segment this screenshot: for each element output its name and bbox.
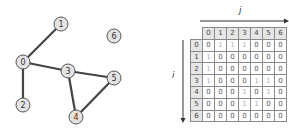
matrix-cell: 1 xyxy=(239,86,251,98)
col-header: 2 xyxy=(227,28,239,40)
matrix-cell: 1 xyxy=(215,39,227,51)
col-header: 0 xyxy=(203,28,215,40)
matrix-row: 21000000 xyxy=(191,63,287,75)
matrix-row: 50001100 xyxy=(191,98,287,110)
i-arrowhead-icon xyxy=(181,118,186,123)
col-header: 5 xyxy=(263,28,275,40)
node-3: 3 xyxy=(61,64,75,78)
node-label: 6 xyxy=(111,32,116,41)
node-label: 3 xyxy=(65,67,70,76)
matrix-cell: 0 xyxy=(203,39,215,51)
adjacency-matrix-table: 0123456001110001100000021000000310001104… xyxy=(190,27,287,122)
matrix-cell: 1 xyxy=(251,75,263,87)
row-header: 1 xyxy=(191,51,203,63)
col-header: 1 xyxy=(215,28,227,40)
matrix-cell: 0 xyxy=(251,110,263,122)
matrix-cell: 0 xyxy=(263,51,275,63)
matrix-cell: 0 xyxy=(275,110,287,122)
matrix-corner xyxy=(191,28,203,40)
matrix-row: 60000000 xyxy=(191,110,287,122)
matrix-cell: 0 xyxy=(275,63,287,75)
matrix-cell: 1 xyxy=(203,63,215,75)
matrix-cell: 0 xyxy=(251,51,263,63)
matrix-cell: 0 xyxy=(227,98,239,110)
matrix-cell: 0 xyxy=(203,98,215,110)
j-arrowhead-icon xyxy=(284,19,289,24)
matrix-cell: 1 xyxy=(203,51,215,63)
matrix-cell: 0 xyxy=(227,63,239,75)
matrix-cell: 0 xyxy=(215,63,227,75)
node-1: 1 xyxy=(54,17,68,31)
row-header: 4 xyxy=(191,86,203,98)
matrix-cell: 1 xyxy=(263,75,275,87)
node-label: 2 xyxy=(20,101,25,110)
matrix-cell: 1 xyxy=(239,98,251,110)
node-label: 0 xyxy=(20,58,25,67)
matrix-row: 00111000 xyxy=(191,39,287,51)
matrix-cell: 0 xyxy=(227,51,239,63)
graph-diagram: 0123456 xyxy=(0,0,150,133)
row-header: 0 xyxy=(191,39,203,51)
col-header: 4 xyxy=(251,28,263,40)
edge-0-1 xyxy=(23,24,61,62)
matrix-cell: 1 xyxy=(263,86,275,98)
col-header: 3 xyxy=(239,28,251,40)
node-6: 6 xyxy=(107,29,121,43)
matrix-cell: 0 xyxy=(251,63,263,75)
row-header: 5 xyxy=(191,98,203,110)
matrix-cell: 1 xyxy=(203,75,215,87)
adjacency-matrix-panel: j i 012345600111000110000002100000031000… xyxy=(160,0,289,133)
node-label: 4 xyxy=(73,113,78,122)
matrix-cell: 0 xyxy=(275,39,287,51)
node-0: 0 xyxy=(16,55,30,69)
matrix-cell: 1 xyxy=(251,98,263,110)
matrix-cell: 0 xyxy=(275,51,287,63)
matrix-cell: 0 xyxy=(263,39,275,51)
j-axis-label: j xyxy=(239,5,242,15)
matrix-row: 40001010 xyxy=(191,86,287,98)
matrix-cell: 0 xyxy=(215,98,227,110)
matrix-cell: 0 xyxy=(239,51,251,63)
matrix-cell: 0 xyxy=(239,75,251,87)
matrix-cell: 0 xyxy=(239,63,251,75)
graph-nodes: 0123456 xyxy=(16,17,121,124)
matrix-cell: 0 xyxy=(215,110,227,122)
node-5: 5 xyxy=(107,71,121,85)
matrix-cell: 0 xyxy=(251,86,263,98)
matrix-cell: 0 xyxy=(239,110,251,122)
row-header: 3 xyxy=(191,75,203,87)
matrix-cell: 0 xyxy=(263,63,275,75)
node-4: 4 xyxy=(69,110,83,124)
matrix-cell: 1 xyxy=(227,39,239,51)
row-header: 2 xyxy=(191,63,203,75)
matrix-cell: 0 xyxy=(275,75,287,87)
matrix-cell: 0 xyxy=(227,86,239,98)
matrix-row: 11000000 xyxy=(191,51,287,63)
matrix-cell: 0 xyxy=(263,110,275,122)
i-axis-label: i xyxy=(172,70,175,80)
row-header: 6 xyxy=(191,110,203,122)
matrix-cell: 0 xyxy=(263,98,275,110)
matrix-cell: 0 xyxy=(215,51,227,63)
matrix-cell: 0 xyxy=(227,110,239,122)
matrix-cell: 0 xyxy=(203,110,215,122)
matrix-cell: 0 xyxy=(203,86,215,98)
matrix-cell: 1 xyxy=(239,39,251,51)
matrix-cell: 0 xyxy=(275,98,287,110)
edge-4-5 xyxy=(76,78,114,117)
matrix-row: 31000110 xyxy=(191,75,287,87)
matrix-cell: 0 xyxy=(251,39,263,51)
col-header: 6 xyxy=(275,28,287,40)
matrix-cell: 0 xyxy=(215,86,227,98)
node-2: 2 xyxy=(16,98,30,112)
matrix-cell: 0 xyxy=(227,75,239,87)
node-label: 1 xyxy=(58,20,63,29)
matrix-header-row: 0123456 xyxy=(191,28,287,40)
matrix-cell: 0 xyxy=(275,86,287,98)
node-label: 5 xyxy=(111,74,116,83)
matrix-cell: 0 xyxy=(215,75,227,87)
